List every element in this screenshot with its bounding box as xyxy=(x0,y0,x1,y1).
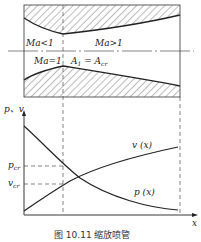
pv-plot xyxy=(22,110,198,217)
y-axis-label: p、v xyxy=(4,104,24,114)
v-curve-label: v (x) xyxy=(132,140,153,150)
p-cr-label: pcr xyxy=(8,160,21,171)
p-curve-label: p (x) xyxy=(134,187,155,197)
nozzle-section xyxy=(8,5,194,215)
nozzle-diagram: Ma<1 Ma>1 Ma=1 A1 = Acr p、v x pcr vcr v … xyxy=(0,0,201,242)
subsonic-label: Ma<1 xyxy=(25,38,54,48)
supersonic-label: Ma>1 xyxy=(94,38,123,48)
throat-area-label: A1 = Acr xyxy=(70,56,108,67)
v-cr-label: vcr xyxy=(8,178,20,189)
figure-caption: 图 10.11 缩放喷管 xyxy=(54,229,131,240)
v-curve xyxy=(24,147,178,211)
x-axis-arrow-icon xyxy=(192,213,198,217)
throat-mach-label: Ma=1 xyxy=(33,56,62,66)
x-axis-label: x xyxy=(192,218,197,228)
